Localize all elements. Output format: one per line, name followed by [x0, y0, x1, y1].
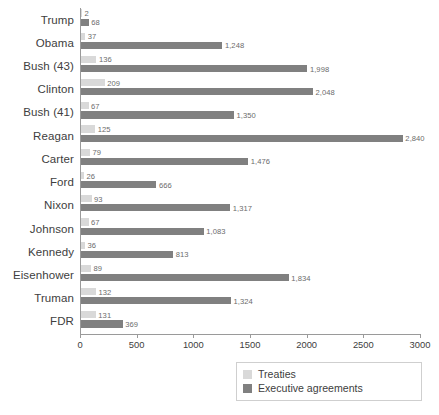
legend-item-executive-agreements: Executive agreements [243, 381, 415, 395]
x-tick-label: 1500 [240, 339, 261, 350]
category-label-carter: Carter [2, 153, 74, 165]
category-label-nixon: Nixon [2, 199, 74, 211]
bar-executive-agreements [81, 251, 173, 258]
bar-value-label: 2 [82, 9, 89, 18]
category-label-truman: Truman [2, 292, 74, 304]
bar-treaties [81, 79, 105, 86]
x-tick [137, 334, 138, 338]
bar-value-label: 813 [173, 250, 188, 259]
legend-swatch-treaties [243, 370, 252, 379]
bar-value-label: 1,083 [204, 227, 226, 236]
bar-treaties [81, 288, 96, 295]
legend-label-treaties: Treaties [258, 368, 296, 380]
chart-row: Johnson671,083 [80, 217, 420, 240]
x-tick-label: 2500 [353, 339, 374, 350]
bar-value-label: 37 [85, 32, 96, 41]
category-label-eisenhower: Eisenhower [2, 269, 74, 281]
x-tick [307, 334, 308, 338]
x-tick-label: 0 [77, 339, 82, 350]
chart-row: Reagan1252,840 [80, 124, 420, 147]
bar-value-label: 26 [84, 171, 95, 180]
category-label-bush-43: Bush (43) [2, 60, 74, 72]
bar-value-label: 132 [96, 287, 111, 296]
chart-row: Bush (41)671,350 [80, 101, 420, 124]
bar-value-label: 1,317 [230, 203, 252, 212]
x-tick [80, 334, 81, 338]
bar-value-label: 136 [96, 55, 111, 64]
bar-value-label: 2,048 [313, 87, 335, 96]
bar-executive-agreements [81, 274, 289, 281]
category-label-trump: Trump [2, 14, 74, 26]
bar-value-label: 67 [89, 101, 100, 110]
x-tick [363, 334, 364, 338]
bar-treaties [81, 265, 91, 272]
x-tick [420, 334, 421, 338]
bar-value-label: 68 [89, 18, 100, 27]
bar-executive-agreements [81, 181, 156, 188]
x-tick [250, 334, 251, 338]
bar-treaties [81, 195, 92, 202]
x-tick-label: 500 [129, 339, 145, 350]
treaties-vs-executive-agreements-chart: Trump268Obama371,248Bush (43)1361,998Cli… [0, 0, 439, 415]
category-label-clinton: Clinton [2, 83, 74, 95]
category-label-reagan: Reagan [2, 130, 74, 142]
x-tick-label: 2000 [296, 339, 317, 350]
category-label-johnson: Johnson [2, 223, 74, 235]
plot-area: Trump268Obama371,248Bush (43)1361,998Cli… [80, 8, 420, 333]
chart-row: Clinton2092,048 [80, 78, 420, 101]
chart-row: Obama371,248 [80, 31, 420, 54]
bar-executive-agreements [81, 135, 403, 142]
bar-value-label: 93 [92, 194, 103, 203]
legend-swatch-executive-agreements [243, 384, 252, 393]
bar-treaties [81, 149, 90, 156]
x-tick-label: 1000 [183, 339, 204, 350]
bar-value-label: 1,350 [234, 111, 256, 120]
chart-row: Nixon931,317 [80, 194, 420, 217]
bar-value-label: 125 [95, 125, 110, 134]
chart-row: Trump268 [80, 8, 420, 31]
bar-executive-agreements [81, 158, 248, 165]
legend-label-executive-agreements: Executive agreements [258, 382, 363, 394]
chart-row: Eisenhower891,834 [80, 263, 420, 286]
bar-executive-agreements [81, 204, 230, 211]
category-label-fdr: FDR [2, 315, 74, 327]
bar-value-label: 1,998 [307, 64, 329, 73]
bar-treaties [81, 125, 95, 132]
bar-treaties [81, 56, 96, 63]
x-tick [193, 334, 194, 338]
bar-value-label: 2,840 [403, 134, 425, 143]
bar-value-label: 79 [90, 148, 101, 157]
bar-executive-agreements [81, 65, 307, 72]
bar-value-label: 209 [105, 78, 120, 87]
category-label-ford: Ford [2, 176, 74, 188]
bar-value-label: 131 [96, 310, 111, 319]
chart-row: Carter791,476 [80, 147, 420, 170]
bar-executive-agreements [81, 88, 313, 95]
bar-executive-agreements [81, 19, 89, 26]
bar-executive-agreements [81, 320, 123, 327]
chart-row: Bush (43)1361,998 [80, 54, 420, 77]
chart-row: Ford26666 [80, 171, 420, 194]
bar-value-label: 1,248 [222, 41, 244, 50]
x-tick-label: 3000 [410, 339, 431, 350]
bar-treaties [81, 218, 89, 225]
bar-executive-agreements [81, 111, 234, 118]
bar-value-label: 1,324 [231, 296, 253, 305]
bar-value-label: 36 [85, 241, 96, 250]
bar-value-label: 67 [89, 217, 100, 226]
bar-executive-agreements [81, 297, 231, 304]
bar-treaties [81, 311, 96, 318]
category-label-bush-41: Bush (41) [2, 106, 74, 118]
bar-value-label: 1,834 [289, 273, 311, 282]
chart-row: FDR131369 [80, 310, 420, 333]
bar-value-label: 89 [91, 264, 102, 273]
bar-executive-agreements [81, 228, 204, 235]
bar-treaties [81, 102, 89, 109]
bar-value-label: 369 [123, 319, 138, 328]
chart-legend: Treaties Executive agreements [236, 362, 422, 401]
category-label-kennedy: Kennedy [2, 246, 74, 258]
chart-row: Kennedy36813 [80, 240, 420, 263]
bar-value-label: 666 [156, 180, 171, 189]
category-label-obama: Obama [2, 37, 74, 49]
bar-value-label: 1,476 [248, 157, 270, 166]
